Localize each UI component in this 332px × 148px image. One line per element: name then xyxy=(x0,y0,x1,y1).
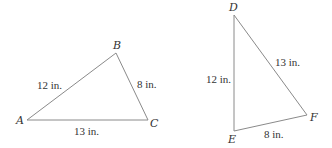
vertex-label-e: E xyxy=(227,133,236,146)
vertex-label-f: F xyxy=(309,111,318,124)
triangles-diagram: A B C 12 in. 8 in. 13 in. D E F 12 in. 1… xyxy=(0,0,332,148)
side-label-ef: 8 in. xyxy=(264,128,284,140)
triangle-def-outline xyxy=(234,15,307,131)
side-label-df: 13 in. xyxy=(275,56,300,68)
side-label-ab: 12 in. xyxy=(37,79,62,91)
side-label-bc: 8 in. xyxy=(137,78,157,90)
vertex-label-d: D xyxy=(228,1,238,14)
side-label-de: 12 in. xyxy=(206,73,231,85)
side-label-ac: 13 in. xyxy=(74,125,99,137)
triangle-abc: A B C 12 in. 8 in. 13 in. xyxy=(15,39,159,137)
triangle-def: D E F 12 in. 13 in. 8 in. xyxy=(206,1,318,146)
vertex-label-b: B xyxy=(112,39,121,52)
vertex-label-c: C xyxy=(150,117,159,130)
vertex-label-a: A xyxy=(15,114,24,127)
